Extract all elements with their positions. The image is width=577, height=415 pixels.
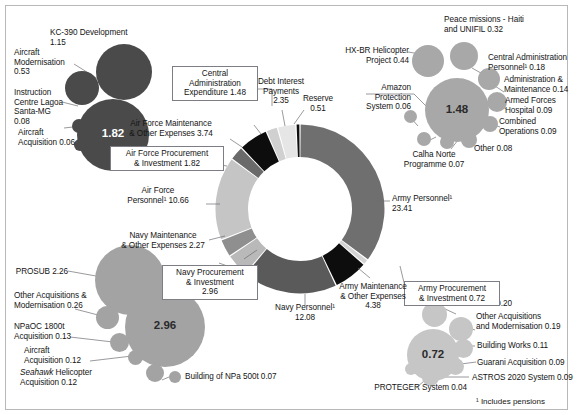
label-navy-aircraft-acq: Aircraft Acquisition 0.12: [24, 346, 94, 365]
label-seahawk: Seahawk Helicopter Acquisition 0.12: [20, 368, 110, 387]
label-prosub: PROSUB 2.26: [6, 267, 68, 277]
label-navy-personnel: Navy Personnel¹ 12.08: [258, 303, 352, 322]
bubble-building-works: [454, 339, 473, 358]
bubble-armed-forces-hospital: [482, 116, 498, 132]
label-af-maintenance: Air Force Maintenance & Other Expenses 3…: [116, 119, 226, 138]
label-astros: ASTROS 2020 System 0.09: [472, 373, 576, 383]
bubble-npaoc: [110, 333, 129, 352]
label-npaoc: NPaOC 1800t Acquisition 0.13: [14, 322, 76, 341]
bubble-navy-procurement-value: 2.96: [125, 319, 205, 331]
label-army-other-acq: Other Acquisitions and Modernisation 0.1…: [476, 312, 576, 331]
label-combined-operations: Combined Operations 0.09: [499, 117, 569, 136]
label-af-personnel: Air Force Personnel¹ 10.66: [110, 186, 206, 205]
bubble-npa500: [169, 371, 181, 383]
bubble-central-admin-value: 1.48: [425, 103, 489, 115]
bubble-guarani: [447, 358, 464, 375]
label-hxbr: HX-BR Helicopter Project 0.44: [337, 46, 409, 65]
label-af-procurement: Air Force Procurement & Investment 1.82: [110, 146, 224, 171]
label-peace-missions: Peace missions - Haiti and UNIFIL 0.32: [444, 15, 544, 34]
label-amazon-protection: Amazon Protection System 0.06: [343, 83, 411, 112]
bubble-navy-aircraft-acq: [128, 350, 143, 365]
label-ca-personnel: Central Administration Personnel¹ 0.18: [488, 53, 574, 72]
bubble-seahawk: [146, 364, 164, 382]
figure-frame: Army Personnel¹ 23.41Army Procurement & …: [5, 5, 568, 410]
footnote: ¹ Includes pensions: [476, 397, 545, 406]
label-navy-procurement: Navy Procurement & Investment 2.96: [162, 265, 258, 300]
label-proteger: PROTEGER System 0.04: [351, 383, 467, 393]
label-navy-maintenance: Navy Maintenance & Other Expenses 2.27: [107, 231, 219, 250]
bubble-other: [440, 135, 454, 149]
bubble-peace-missions: [450, 42, 478, 70]
label-other: Other 0.08: [474, 144, 524, 154]
label-aircraft-modernisation: Aircraft Modernisation 0.53: [14, 48, 76, 77]
label-army-personnel: Army Personnel¹ 23.41: [392, 194, 484, 213]
bubble-proteger: [405, 363, 417, 375]
bubble-calha-norte: [417, 132, 431, 146]
bubble-kc390: [96, 44, 152, 100]
label-instruction-centre: Instruction Centre Lagoa Santa-MG 0.08: [14, 88, 72, 126]
label-navy-other-acq: Other Acquisitions & Modernisation 0.26: [14, 291, 112, 310]
label-seahawk-italic: Seahawk: [20, 368, 53, 377]
label-central-admin: Central Administration Expenditure 1.48: [172, 66, 258, 101]
label-admin-maintenance: Administration & Maintenance 0.14: [504, 75, 574, 94]
label-npa500: Building of NPa 500t 0.07: [185, 372, 295, 382]
label-kc390: KC-390 Development 1.15: [50, 28, 160, 47]
label-calha-norte: Calha Norte Programme 0.07: [398, 150, 470, 169]
bubble-amazon-protection: [404, 110, 417, 123]
bubble-admin-maintenance: [487, 92, 507, 112]
label-reserve: Reserve 0.51: [295, 94, 341, 113]
label-building-works: Building Works 0.11: [477, 341, 567, 351]
label-af-aircraft-acquisition: Aircraft Acquisition 0.06: [18, 128, 98, 147]
bubble-hxbr: [412, 45, 444, 77]
bubble-army-other-acq: [449, 317, 473, 341]
label-guarani: Guarani Acquisition 0.09: [477, 358, 577, 368]
label-armed-forces-hospital: Armed Forces Hospital 0.09: [505, 96, 573, 115]
